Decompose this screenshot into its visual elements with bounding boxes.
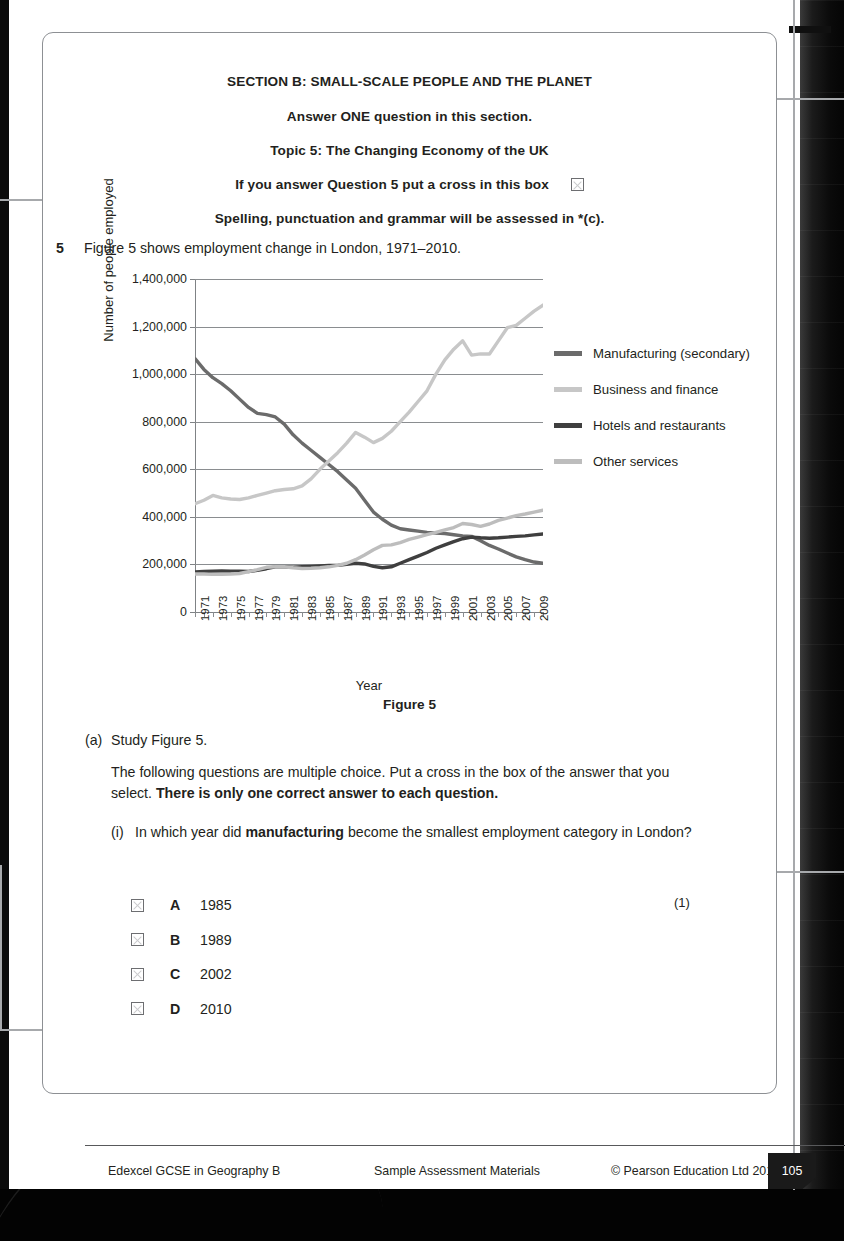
chart-x-tick bbox=[249, 612, 250, 617]
chart-y-tick-label: 400,000 bbox=[142, 510, 187, 524]
chart-x-tick bbox=[213, 612, 214, 617]
chart-x-tick bbox=[302, 612, 303, 617]
chart-y-tick-label: 0 bbox=[180, 605, 187, 619]
scan-edge-right-texture bbox=[800, 0, 844, 1190]
part-a-label: (a) bbox=[85, 732, 102, 748]
sub-question-label: (i) bbox=[111, 822, 124, 843]
answer-option-value: 2002 bbox=[200, 966, 232, 982]
chart-x-tick bbox=[481, 612, 482, 617]
answer-checkbox-b[interactable] bbox=[131, 933, 144, 946]
chart-x-tick bbox=[463, 612, 464, 617]
legend-item: Hotels and restaurants bbox=[554, 407, 759, 443]
callout-line-vertical-right bbox=[793, 0, 795, 1190]
legend-swatch bbox=[554, 459, 582, 464]
chart-x-tick-label: 1979 bbox=[270, 596, 282, 621]
page-number-badge: 105 bbox=[768, 1153, 816, 1189]
legend-swatch bbox=[554, 387, 582, 392]
chart-x-tick-label: 1991 bbox=[377, 596, 389, 621]
callout-box-left-edge bbox=[0, 865, 2, 1030]
chart-x-tick-label: 2009 bbox=[538, 596, 550, 621]
sub-question-text: In which year did manufacturing become t… bbox=[135, 822, 711, 843]
legend-label: Business and finance bbox=[593, 382, 718, 397]
exam-page: SECTION B: SMALL-SCALE PEOPLE AND THE PL… bbox=[42, 32, 777, 1094]
chart-series-lines bbox=[195, 279, 543, 612]
footer-middle-text: Sample Assessment Materials bbox=[374, 1164, 540, 1178]
part-a-text: Study Figure 5. bbox=[111, 732, 725, 748]
sub-i-post: become the smallest employment category … bbox=[344, 824, 692, 840]
chart-x-tick-label: 1973 bbox=[217, 596, 229, 621]
spag-notice: Spelling, punctuation and grammar will b… bbox=[43, 211, 776, 226]
chart-series-manufacturing-secondary bbox=[195, 359, 543, 564]
chart-x-tick bbox=[284, 612, 285, 617]
chart-x-tick-label: 1971 bbox=[199, 596, 211, 621]
chart-y-tick-label: 600,000 bbox=[142, 462, 187, 476]
question-5-stem: 5 Figure 5 shows employment change in Lo… bbox=[56, 240, 461, 256]
answer-option-letter: B bbox=[170, 932, 200, 948]
answer-option-d[interactable]: D2010 bbox=[131, 992, 361, 1027]
chart-x-axis-label: Year bbox=[195, 678, 543, 693]
chart-x-tick bbox=[534, 612, 535, 617]
chart-x-tick-label: 1989 bbox=[360, 596, 372, 621]
answer-option-letter: A bbox=[170, 897, 200, 913]
answer-option-value: 1989 bbox=[200, 932, 232, 948]
chart-x-tick bbox=[338, 612, 339, 617]
chart-x-tick-label: 1997 bbox=[431, 596, 443, 621]
chart-x-tick bbox=[373, 612, 374, 617]
chart-x-tick bbox=[391, 612, 392, 617]
answer-option-c[interactable]: C2002 bbox=[131, 957, 361, 992]
answer-option-letter: D bbox=[170, 1001, 200, 1017]
figure-5-chart: Number of people employed 0200,000400,00… bbox=[67, 275, 757, 695]
chart-x-tick bbox=[516, 612, 517, 617]
answer-option-b[interactable]: B1989 bbox=[131, 923, 361, 958]
chart-x-tick-label: 1981 bbox=[288, 596, 300, 621]
footer-right-text: © Pearson Education Ltd 2012 bbox=[611, 1164, 780, 1178]
multiple-choice-instruction: The following questions are multiple cho… bbox=[111, 762, 691, 805]
chart-x-tick bbox=[427, 612, 428, 617]
chart-x-tick-label: 1995 bbox=[413, 596, 425, 621]
chart-x-tick-label: 2001 bbox=[467, 596, 479, 621]
part-a: (a) Study Figure 5. bbox=[85, 732, 725, 748]
chart-x-tick bbox=[409, 612, 410, 617]
sub-i-bold: manufacturing bbox=[245, 824, 344, 840]
chart-x-tick-label: 1987 bbox=[342, 596, 354, 621]
topic-heading: Topic 5: The Changing Economy of the UK bbox=[43, 143, 776, 158]
chart-x-tick-label: 1983 bbox=[306, 596, 318, 621]
chart-y-tick-label: 1,000,000 bbox=[132, 367, 187, 381]
answer-option-value: 1985 bbox=[200, 897, 232, 913]
answer-checkbox-d[interactable] bbox=[131, 1002, 144, 1015]
chart-x-tick bbox=[195, 612, 196, 617]
legend-item: Manufacturing (secondary) bbox=[554, 335, 759, 371]
figure-caption: Figure 5 bbox=[43, 697, 776, 712]
legend-item: Business and finance bbox=[554, 371, 759, 407]
answer-instruction-heading: Answer ONE question in this section. bbox=[43, 109, 776, 124]
chart-x-tick-label: 2007 bbox=[520, 596, 532, 621]
answer-option-a[interactable]: A1985 bbox=[131, 888, 361, 923]
chart-y-axis-label: Number of people employed bbox=[101, 155, 116, 365]
sub-i-pre: In which year did bbox=[135, 824, 245, 840]
question-a-i: (i) In which year did manufacturing beco… bbox=[111, 822, 711, 843]
cross-box-label: If you answer Question 5 put a cross in … bbox=[235, 177, 549, 192]
question-5-checkbox[interactable] bbox=[571, 178, 584, 191]
chart-y-tick-label: 1,400,000 bbox=[132, 272, 187, 286]
footer-left-text: Edexcel GCSE in Geography B bbox=[108, 1164, 280, 1178]
question-number: 5 bbox=[56, 240, 64, 256]
question-stem-text: Figure 5 shows employment change in Lond… bbox=[84, 240, 461, 256]
chart-x-tick-label: 2003 bbox=[485, 596, 497, 621]
legend-swatch bbox=[554, 423, 582, 428]
chart-x-tick-label: 1975 bbox=[235, 596, 247, 621]
chart-y-tick-label: 800,000 bbox=[142, 415, 187, 429]
answer-checkbox-a[interactable] bbox=[131, 899, 144, 912]
chart-x-tick-label: 1999 bbox=[449, 596, 461, 621]
answer-checkbox-c[interactable] bbox=[131, 968, 144, 981]
section-heading: SECTION B: SMALL-SCALE PEOPLE AND THE PL… bbox=[43, 74, 776, 89]
chart-x-tick-label: 2005 bbox=[502, 596, 514, 621]
chart-x-tick bbox=[231, 612, 232, 617]
marks-indicator: (1) bbox=[674, 895, 690, 910]
legend-label: Hotels and restaurants bbox=[593, 418, 726, 433]
chart-y-tick-label: 200,000 bbox=[142, 557, 187, 571]
legend-label: Other services bbox=[593, 454, 678, 469]
answer-options: A1985B1989C2002D2010 bbox=[131, 888, 361, 1026]
scan-edge-bottom bbox=[0, 1189, 844, 1241]
chart-x-tick bbox=[356, 612, 357, 617]
chart-legend: Manufacturing (secondary)Business and fi… bbox=[554, 335, 759, 479]
